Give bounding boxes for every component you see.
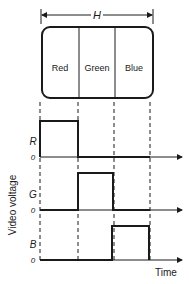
guide-lines [40, 102, 150, 262]
screen: Red Green Blue [42, 27, 153, 98]
trace-b-zero: 0 [31, 256, 36, 265]
trace-g-label: G [29, 189, 37, 200]
x-axis-label: Time [155, 267, 177, 278]
trace-g: G 0 [29, 173, 182, 215]
trace-r: R 0 [29, 121, 182, 162]
trace-g-zero: 0 [31, 206, 36, 215]
width-label: H [93, 9, 101, 21]
rgb-timing-diagram: H Red Green Blue R 0 G 0 B 0 Video volta [0, 0, 189, 284]
trace-r-label: R [29, 136, 36, 147]
band-blue-label: Blue [125, 63, 143, 73]
y-axis-label: Video voltage [7, 174, 18, 235]
trace-r-zero: 0 [31, 153, 36, 162]
band-red-label: Red [52, 63, 69, 73]
trace-b-label: B [30, 239, 37, 250]
trace-b: B 0 [30, 226, 182, 265]
width-dimension: H [41, 9, 153, 24]
band-green-label: Green [84, 63, 109, 73]
